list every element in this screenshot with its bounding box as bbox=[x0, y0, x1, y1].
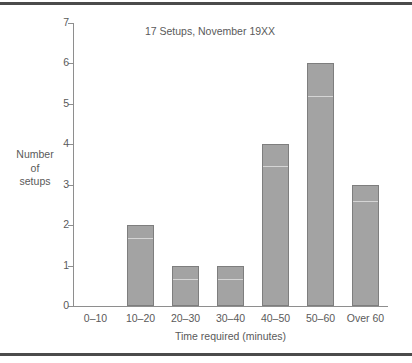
bar-scanline-artifact bbox=[263, 166, 288, 167]
y-axis-tick-label: 3 bbox=[63, 178, 69, 191]
y-axis-tick-label: 2 bbox=[63, 218, 69, 231]
y-axis-tick-label: 0 bbox=[63, 299, 69, 312]
y-axis-title-line-1: Number bbox=[6, 148, 64, 162]
bar bbox=[262, 144, 289, 306]
x-axis-tick-label: Over 60 bbox=[347, 312, 384, 325]
histogram-chart: 17 Setups, November 19XX Number of setup… bbox=[0, 8, 412, 348]
y-axis-title-line-2: of bbox=[6, 162, 64, 176]
y-axis-tick-label: 4 bbox=[63, 137, 69, 150]
bar-scanline-artifact bbox=[218, 279, 243, 280]
y-axis-tick-label: 1 bbox=[63, 259, 69, 272]
top-divider-rule bbox=[0, 2, 412, 5]
x-axis-tick-label: 0–10 bbox=[84, 312, 107, 325]
bar bbox=[217, 266, 244, 306]
bar bbox=[172, 266, 199, 306]
x-axis-line bbox=[73, 306, 388, 307]
bar bbox=[307, 63, 334, 306]
x-axis-tick-label: 20–30 bbox=[171, 312, 200, 325]
bar bbox=[127, 225, 154, 306]
x-axis-tick-label: 50–60 bbox=[306, 312, 335, 325]
x-axis-tick-label: 30–40 bbox=[216, 312, 245, 325]
y-axis-title: Number of setups bbox=[6, 148, 64, 189]
chart-page: 17 Setups, November 19XX Number of setup… bbox=[0, 0, 412, 363]
plot-area bbox=[73, 23, 388, 306]
bar bbox=[352, 185, 379, 306]
y-axis-tick-label: 7 bbox=[63, 16, 69, 29]
bar-scanline-artifact bbox=[128, 238, 153, 239]
y-axis-tick-label: 6 bbox=[63, 56, 69, 69]
y-axis-tick-label: 5 bbox=[63, 97, 69, 110]
x-axis-title: Time required (minutes) bbox=[73, 330, 388, 343]
x-axis-tick-label: 40–50 bbox=[261, 312, 290, 325]
bar-scanline-artifact bbox=[173, 279, 198, 280]
x-axis-tick-label: 10–20 bbox=[126, 312, 155, 325]
bottom-divider-rule bbox=[0, 353, 412, 356]
y-axis-title-line-3: setups bbox=[6, 175, 64, 189]
bar-scanline-artifact bbox=[308, 96, 333, 97]
bar-scanline-artifact bbox=[353, 201, 378, 202]
